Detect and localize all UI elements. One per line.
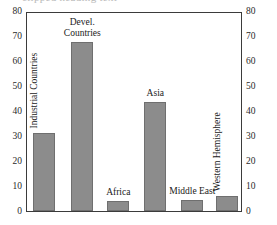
y-tick-right-60: 60	[246, 57, 256, 67]
y-tick-right-40: 40	[246, 107, 256, 117]
bar-group-devel-countries: Devel. Countries	[71, 13, 93, 210]
y-tick-right-0: 0	[246, 207, 251, 217]
y-tick-right-70: 70	[246, 32, 256, 42]
bar-western-hemisphere[interactable]	[216, 196, 238, 211]
bar-label-industrial-countries: Industrial Countries	[30, 53, 40, 129]
y-tick-left-10: 10	[0, 182, 22, 192]
y-tick-right-50: 50	[246, 82, 256, 92]
bar-industrial-countries[interactable]	[33, 133, 55, 211]
bar-group-western-hemisphere: Western Hemisphere	[216, 13, 238, 210]
y-tick-right-10: 10	[246, 182, 256, 192]
y-tick-right-20: 20	[246, 157, 256, 167]
bar-label-western-hemisphere: Western Hemisphere	[213, 113, 223, 192]
bar-label-devel-countries-line1: Devel.	[64, 17, 101, 28]
y-tick-left-40: 40	[0, 107, 22, 117]
bar-label-devel-countries: Devel. Countries	[64, 17, 101, 39]
bar-group-africa: Africa	[107, 13, 129, 210]
bar-devel-countries[interactable]	[71, 42, 93, 211]
y-axis-right: 80 70 60 50 40 30 20 10 0	[246, 12, 274, 212]
y-tick-right-80: 80	[246, 7, 256, 17]
bar-africa[interactable]	[107, 201, 129, 211]
y-tick-right-30: 30	[246, 132, 256, 142]
y-tick-left-50: 50	[0, 82, 22, 92]
bar-group-asia: Asia	[144, 13, 166, 210]
bar-asia[interactable]	[144, 102, 166, 211]
bar-chart: clipped heading text 80 70 60 50 40 30 2…	[0, 0, 277, 225]
bar-middle-east[interactable]	[181, 200, 203, 211]
bar-label-africa: Africa	[106, 187, 130, 198]
bar-label-devel-countries-line2: Countries	[64, 28, 101, 39]
clipped-title-text: clipped heading text	[22, 0, 117, 3]
bar-label-asia: Asia	[147, 88, 164, 99]
bar-label-middle-east: Middle East	[169, 186, 215, 197]
y-tick-left-0: 0	[0, 207, 22, 217]
bars-layer: Industrial Countries Devel. Countries Af…	[27, 13, 240, 210]
bar-group-middle-east: Middle East	[181, 13, 203, 210]
bar-group-industrial-countries: Industrial Countries	[33, 13, 55, 210]
y-tick-left-70: 70	[0, 32, 22, 42]
y-tick-left-30: 30	[0, 132, 22, 142]
y-tick-left-20: 20	[0, 157, 22, 167]
y-tick-left-60: 60	[0, 57, 22, 67]
clipped-title-strip: clipped heading text	[0, 0, 277, 7]
y-tick-left-80: 80	[0, 7, 22, 17]
y-axis-left: 80 70 60 50 40 30 20 10 0	[0, 12, 22, 212]
